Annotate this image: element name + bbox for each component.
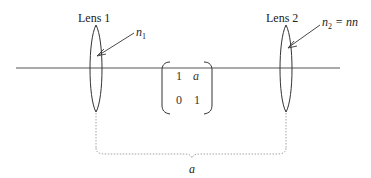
n2-label: n2 = nn [322,16,358,31]
lens-1-label: Lens 1 [78,12,110,24]
matrix-left-paren [162,62,170,114]
matrix-cell-r1c2: a [193,70,199,82]
distance-label: a [189,163,195,175]
matrix-right-paren [204,62,212,114]
matrix-cell-r2c2: 1 [194,94,200,106]
optics-diagram: Lens 1 Lens 2 n1 n2 = nn 1 a 0 1 a [0,0,371,178]
n1-label: n1 [136,26,146,41]
lens-2-label: Lens 2 [266,12,298,24]
n2-arrow [289,25,320,47]
distance-brace [96,148,286,158]
n2-expression: = nn [332,15,358,29]
matrix-cell-r1c1: 1 [176,70,182,82]
n1-arrow [99,33,134,55]
matrix-cell-r2c1: 0 [176,94,182,106]
n1-subscript: 1 [142,32,146,41]
